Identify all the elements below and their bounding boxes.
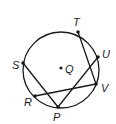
point-u: [96, 55, 100, 59]
circle-diagram: T U S V R P Q: [0, 0, 116, 124]
point-q-center: [59, 66, 62, 69]
segment-tv: [78, 32, 96, 84]
label-q: Q: [65, 63, 74, 75]
point-t: [76, 30, 80, 34]
point-r: [33, 94, 37, 98]
label-r: R: [24, 96, 32, 108]
label-s: S: [12, 59, 20, 71]
label-p: P: [53, 111, 61, 123]
label-t: T: [73, 16, 81, 28]
label-v: V: [101, 82, 110, 94]
point-s: [21, 61, 25, 65]
label-u: U: [102, 48, 110, 60]
point-v: [94, 82, 98, 86]
segment-pu: [58, 57, 98, 107]
point-p: [56, 105, 60, 109]
